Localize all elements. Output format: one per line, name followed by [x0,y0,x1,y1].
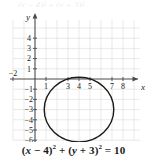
x-tick-label: 8 [121,82,125,91]
x-tick-label: −2 [9,69,18,78]
y-tick-label: −4 [24,116,33,125]
x-tick-label: 1 [44,82,48,91]
y-tick-label: 2 [27,54,31,63]
y-tick-label: 3 [27,44,31,53]
x-axis-label: x [140,82,145,92]
y-tick-label: −1 [24,85,33,94]
x-tick-label: 7 [110,82,114,91]
coordinate-plane: −2 1 3 4 5 7 8 4 3 2 1 −1 −2 −3 −4 −5 −6 [0,0,147,142]
equation-plus: + [56,144,68,156]
y-tick-label: 4 [27,34,31,43]
equation-equals: = [102,144,114,156]
y-tick-label: −6 [24,136,33,142]
x-tick-label: 3 [66,82,70,91]
y-tick-label: −5 [24,126,33,135]
equation-plus-inner: + [77,144,89,156]
x-tick-label: 5 [88,82,92,91]
y-tick-labels: 4 3 2 1 −1 −2 −3 −4 −5 −6 [24,34,33,142]
plot-svg: −2 1 3 4 5 7 8 4 3 2 1 −1 −2 −3 −4 −5 −6 [0,0,147,142]
y-tick-label: 1 [27,65,31,74]
circle-graph-figure: (x − 4)² + (y + 3)² [0,0,147,163]
y-tick-label: −3 [24,105,33,114]
equation-caption: (x − 4)2 + (y + 3)2 = 10 [0,144,147,156]
y-tick-label: −2 [24,95,33,104]
equation-rhs-value: 10 [114,144,125,156]
y-axis [33,13,38,142]
equation-minus: − [31,144,43,156]
x-tick-label: 4 [77,82,81,91]
y-axis-label: y [25,12,30,22]
